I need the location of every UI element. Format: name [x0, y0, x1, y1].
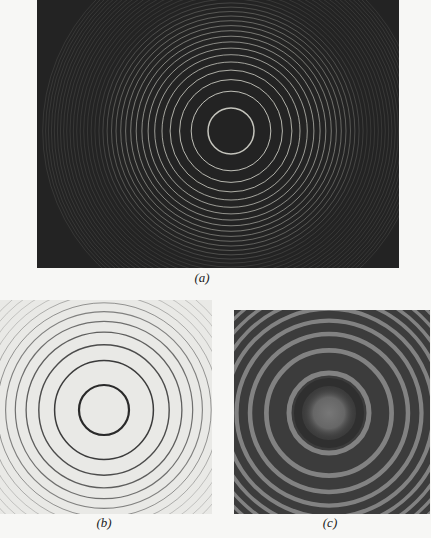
fringe-pattern-b	[0, 300, 212, 514]
fringe-pattern-c	[234, 310, 430, 514]
caption-b: (b)	[96, 515, 111, 531]
figure-panel-b	[0, 300, 212, 514]
figure-panel-c	[234, 310, 430, 514]
caption-c: (c)	[323, 515, 337, 531]
fringe-pattern-a	[37, 0, 399, 268]
caption-a: (a)	[194, 270, 209, 286]
figure-panel-a	[37, 0, 399, 268]
